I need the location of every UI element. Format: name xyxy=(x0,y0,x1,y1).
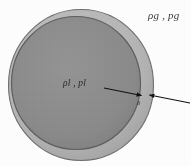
gas-phase-label: ρg , pg xyxy=(148,10,179,21)
liquid-phase-label: ρl , pl xyxy=(63,79,86,89)
figure-canvas: ρg , pg ρl , pl δ xyxy=(0,0,191,166)
shell-thickness-label: δ xyxy=(137,100,140,107)
outer-thickness-arrow xyxy=(150,95,191,103)
droplet-diagram xyxy=(0,0,191,166)
